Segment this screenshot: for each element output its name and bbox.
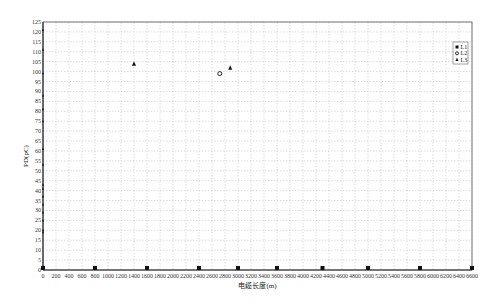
- y-tick-label: 80: [35, 108, 41, 114]
- y-tick-label: 110: [32, 49, 41, 55]
- y-tick-label: 95: [35, 79, 41, 85]
- x-tick-label: 3600: [271, 273, 283, 279]
- x-tick-label: 3400: [258, 273, 270, 279]
- x-tick-label: 6400: [453, 273, 465, 279]
- x-tick-label: 2800: [219, 273, 231, 279]
- x-tick-label: 3200: [245, 273, 257, 279]
- x-tick-label: 4800: [349, 273, 361, 279]
- y-tick-label: 35: [35, 198, 41, 204]
- data-point-l1: [470, 266, 474, 270]
- x-tick-label: 200: [52, 273, 61, 279]
- x-tick-label: 3800: [284, 273, 296, 279]
- legend-l1-icon: [456, 46, 459, 49]
- y-tick-label: 40: [35, 188, 41, 194]
- x-axis-label: 电缆长度(m): [238, 281, 277, 290]
- x-tick-label: 600: [78, 273, 87, 279]
- y-tick-label: 65: [35, 138, 41, 144]
- x-tick-label: 4200: [310, 273, 322, 279]
- data-point-l3: [228, 65, 232, 70]
- x-tick-label: 6000: [427, 273, 439, 279]
- y-tick-label: 50: [35, 168, 41, 174]
- data-point-l1: [93, 266, 97, 270]
- data-point-l3: [42, 183, 44, 186]
- data-point-l3: [42, 187, 44, 190]
- legend-label: L1: [461, 44, 468, 50]
- data-point-l1: [197, 266, 201, 270]
- data-point-l1: [41, 266, 45, 270]
- x-tick-label: 0: [42, 273, 45, 279]
- y-tick-label: 45: [35, 178, 41, 184]
- x-tick-label: 2600: [206, 273, 218, 279]
- data-point-l3: [132, 61, 136, 66]
- x-tick-label: 1800: [154, 273, 166, 279]
- data-point-l3: [42, 211, 44, 214]
- y-axis-label: PD(pC): [22, 144, 30, 166]
- y-tick-label: 90: [35, 88, 41, 94]
- y-tick-label: 10: [35, 247, 41, 253]
- plot-area-frame: [43, 22, 472, 270]
- legend-l2-icon: [456, 52, 459, 55]
- x-tick-label: 4000: [297, 273, 309, 279]
- y-tick-label: 60: [35, 148, 41, 154]
- x-tick-label: 5200: [375, 273, 387, 279]
- y-tick-label: 25: [35, 217, 41, 223]
- y-tick-label: 120: [32, 29, 41, 35]
- y-tick-label: 125: [32, 19, 41, 25]
- x-tick-label: 400: [65, 273, 74, 279]
- x-tick-label: 5400: [388, 273, 400, 279]
- data-point-l3: [42, 28, 44, 31]
- x-tick-label: 800: [91, 273, 100, 279]
- y-tick-label: 70: [35, 128, 41, 134]
- data-point-l1: [275, 266, 279, 270]
- legend-label: L2: [461, 50, 468, 56]
- y-tick-label: 55: [35, 158, 41, 164]
- data-point-l1: [236, 266, 240, 270]
- y-tick-label: 20: [35, 227, 41, 233]
- y-tick-label: 75: [35, 118, 41, 124]
- y-tick-label: 115: [32, 39, 41, 45]
- data-point-l3: [42, 195, 44, 198]
- x-tick-label: 5000: [362, 273, 374, 279]
- x-tick-label: 2200: [180, 273, 192, 279]
- data-point-l3: [42, 72, 44, 75]
- x-tick-label: 1000: [102, 273, 114, 279]
- grid-lines: [43, 22, 472, 270]
- legend-label: L3: [461, 57, 468, 63]
- y-tick-label: 5: [38, 257, 41, 263]
- y-axis-ticks: 0510152025303540455055606570758085909510…: [32, 19, 41, 273]
- y-tick-label: 15: [35, 237, 41, 243]
- pd-scatter-chart: 0510152025303540455055606570758085909510…: [0, 0, 496, 307]
- x-tick-label: 3000: [232, 273, 244, 279]
- x-tick-label: 5800: [414, 273, 426, 279]
- y-tick-label: 30: [35, 207, 41, 213]
- data-point-l3: [42, 203, 44, 206]
- x-tick-label: 6200: [440, 273, 452, 279]
- data-point-l1: [145, 266, 149, 270]
- y-tick-label: 100: [32, 69, 41, 75]
- x-tick-label: 2000: [167, 273, 179, 279]
- data-point-l3: [42, 48, 44, 51]
- x-tick-label: 2400: [193, 273, 205, 279]
- x-tick-label: 4400: [323, 273, 335, 279]
- y-tick-label: 105: [32, 59, 41, 65]
- data-point-l1: [418, 266, 422, 270]
- x-tick-label: 1600: [141, 273, 153, 279]
- x-tick-label: 6600: [466, 273, 478, 279]
- legend: L1L2L3: [453, 42, 468, 64]
- x-tick-label: 5600: [401, 273, 413, 279]
- x-tick-label: 1200: [115, 273, 127, 279]
- data-point-l3: [42, 147, 44, 150]
- y-tick-label: 85: [35, 98, 41, 104]
- data-point-l3: [42, 94, 44, 97]
- data-point-l1: [321, 266, 325, 270]
- data-point-l3: [42, 163, 44, 166]
- data-points: [41, 28, 474, 270]
- data-point-l1: [366, 266, 370, 270]
- x-tick-label: 4600: [336, 273, 348, 279]
- x-tick-label: 1400: [128, 273, 140, 279]
- data-point-l3: [42, 108, 44, 111]
- data-point-l2: [218, 72, 222, 76]
- x-axis-ticks: 0200400600800100012001400160018002000220…: [42, 273, 479, 279]
